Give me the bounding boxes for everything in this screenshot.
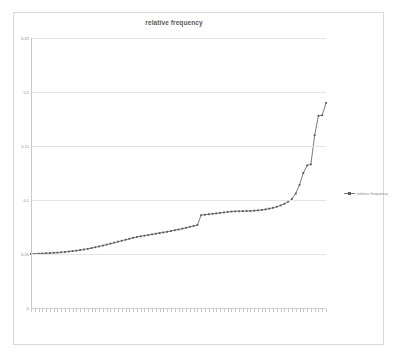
- data-point-marker: [268, 208, 270, 210]
- data-point-marker: [231, 211, 233, 213]
- x-axis-tick: [186, 309, 187, 312]
- gridline: [31, 254, 326, 255]
- chart-legend: relative frequency: [344, 191, 388, 196]
- x-axis-tick: [235, 309, 236, 312]
- data-point-marker: [208, 213, 210, 215]
- x-axis-tick: [163, 309, 164, 312]
- gridline: [31, 200, 326, 201]
- x-axis-tick: [133, 309, 134, 312]
- x-axis-tick: [197, 309, 198, 312]
- data-point-marker: [72, 250, 74, 252]
- data-point-marker: [189, 226, 191, 228]
- data-point-marker: [162, 232, 164, 234]
- data-point-marker: [253, 210, 255, 212]
- x-axis-tick: [126, 309, 127, 312]
- x-axis-tick: [171, 309, 172, 312]
- data-point-marker: [87, 248, 89, 250]
- x-axis-tick: [57, 309, 58, 312]
- data-point-marker: [223, 212, 225, 214]
- x-axis-tick: [213, 309, 214, 312]
- y-axis-tick-labels: 00.050.10.150.20.25: [14, 38, 29, 308]
- gridline: [31, 146, 326, 147]
- data-point-marker: [121, 240, 123, 242]
- data-point-marker: [94, 246, 96, 248]
- x-axis-tick: [35, 309, 36, 312]
- x-axis-tick: [84, 309, 85, 312]
- x-axis-tick: [152, 309, 153, 312]
- x-axis-tick: [190, 309, 191, 312]
- data-point-marker: [64, 251, 66, 253]
- x-axis-tick: [250, 309, 251, 312]
- x-axis-tick: [80, 309, 81, 312]
- x-axis-tick: [296, 309, 297, 312]
- data-point-marker: [246, 210, 248, 212]
- x-axis-tick: [273, 309, 274, 312]
- x-axis-tick: [318, 309, 319, 312]
- x-axis-tick: [216, 309, 217, 312]
- x-axis-tick: [277, 309, 278, 312]
- data-point-marker: [261, 209, 263, 211]
- data-point-marker: [215, 212, 217, 214]
- x-axis-tick: [42, 309, 43, 312]
- data-point-marker: [276, 206, 278, 208]
- x-axis-tick: [144, 309, 145, 312]
- data-point-marker: [234, 210, 236, 212]
- chart-frame: relative frequency 00.050.10.150.20.25 r…: [13, 12, 384, 345]
- y-axis-tick-label: 0.2: [23, 90, 29, 95]
- x-axis-tick: [129, 309, 130, 312]
- data-point-marker: [113, 242, 115, 244]
- y-axis-tick-label: 0: [27, 306, 29, 311]
- x-axis-tick: [205, 309, 206, 312]
- x-axis-tick: [99, 309, 100, 312]
- data-point-marker: [306, 165, 308, 167]
- x-axis-tick: [69, 309, 70, 312]
- data-point-marker: [310, 163, 312, 165]
- data-point-marker: [83, 249, 85, 251]
- y-axis-tick-label: 0.15: [21, 144, 29, 149]
- data-point-marker: [144, 235, 146, 237]
- y-axis-tick-label: 0.1: [23, 198, 29, 203]
- x-axis-tick: [262, 309, 263, 312]
- x-axis-tick: [269, 309, 270, 312]
- x-axis-tick: [265, 309, 266, 312]
- data-point-marker: [174, 229, 176, 231]
- legend-label: relative frequency: [357, 191, 389, 196]
- data-point-marker: [79, 249, 81, 251]
- x-axis-ticks: [31, 309, 326, 312]
- gridline: [31, 38, 326, 39]
- y-axis-line: [31, 38, 32, 309]
- chart-title: relative frequency: [14, 19, 334, 26]
- x-axis-tick: [182, 309, 183, 312]
- data-point-marker: [318, 115, 320, 117]
- data-point-marker: [219, 212, 221, 214]
- x-axis-tick: [303, 309, 304, 312]
- data-point-marker: [185, 227, 187, 229]
- x-axis-tick: [114, 309, 115, 312]
- x-axis-tick: [156, 309, 157, 312]
- x-axis-tick: [141, 309, 142, 312]
- data-point-marker: [140, 235, 142, 237]
- data-point-marker: [272, 207, 274, 209]
- x-axis-tick: [224, 309, 225, 312]
- data-point-marker: [200, 214, 202, 216]
- x-axis-tick: [61, 309, 62, 312]
- data-point-marker: [155, 233, 157, 235]
- x-axis-tick: [322, 309, 323, 312]
- data-point-marker: [204, 214, 206, 216]
- x-axis-tick: [103, 309, 104, 312]
- x-axis-tick: [95, 309, 96, 312]
- x-axis-tick: [288, 309, 289, 312]
- series-relative-frequency: [31, 38, 326, 308]
- data-point-marker: [314, 134, 316, 136]
- x-axis-tick: [201, 309, 202, 312]
- series-line: [31, 103, 326, 254]
- x-axis-tick: [110, 309, 111, 312]
- data-point-marker: [299, 184, 301, 186]
- legend-line-marker-icon: [344, 191, 355, 196]
- x-axis-tick: [254, 309, 255, 312]
- data-point-marker: [302, 172, 304, 174]
- data-point-marker: [249, 210, 251, 212]
- x-axis-tick: [107, 309, 108, 312]
- data-point-marker: [151, 233, 153, 235]
- data-point-marker: [128, 238, 130, 240]
